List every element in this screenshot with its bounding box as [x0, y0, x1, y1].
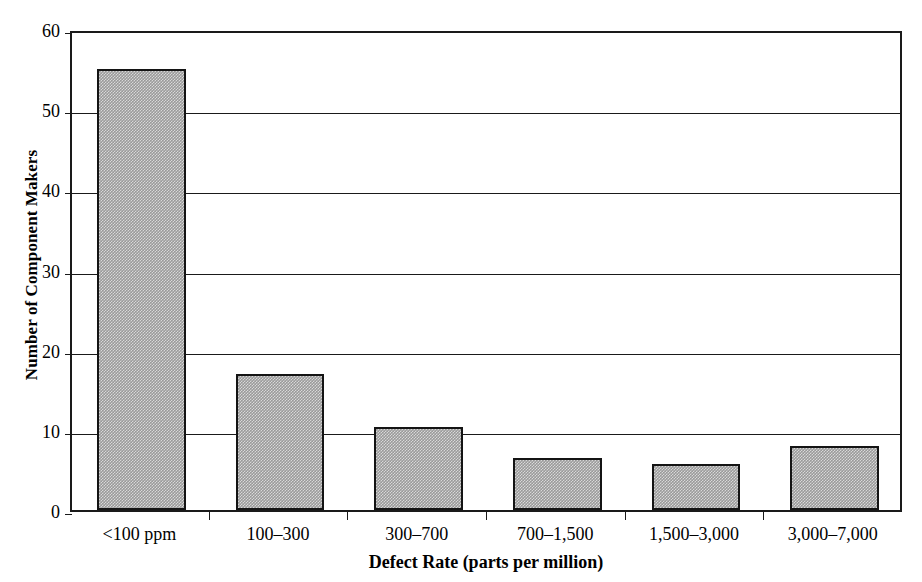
x-tick-mark [625, 512, 626, 520]
bar[interactable] [790, 446, 879, 510]
plot-area [70, 31, 902, 512]
x-axis-tick-labels: <100 ppm100–300300–700700–1,5001,500–3,0… [70, 521, 902, 549]
bar-slot [765, 33, 904, 510]
bar[interactable] [236, 374, 325, 510]
y-tick-label: 0 [14, 503, 60, 521]
bar[interactable] [97, 69, 186, 510]
bar[interactable] [652, 464, 741, 510]
x-tick-label: 3,000–7,000 [763, 521, 902, 547]
y-tick-mark [65, 113, 72, 114]
y-tick-mark [65, 33, 72, 34]
bar-slot [349, 33, 488, 510]
x-tick-label: 300–700 [347, 521, 486, 547]
x-tick-label: 1,500–3,000 [625, 521, 764, 547]
y-tick-label: 30 [14, 263, 60, 281]
bar[interactable] [374, 427, 463, 510]
y-tick-label: 50 [14, 102, 60, 120]
y-tick-mark [65, 274, 72, 275]
x-tick-label: 700–1,500 [486, 521, 625, 547]
x-tick-mark [486, 512, 487, 520]
bar[interactable] [513, 458, 602, 510]
bar-slot [488, 33, 627, 510]
x-tick-label: 100–300 [209, 521, 348, 547]
y-tick-label: 10 [14, 423, 60, 441]
y-tick-label: 40 [14, 182, 60, 200]
x-tick-mark [209, 512, 210, 520]
bar-slot [72, 33, 211, 510]
y-tick-label: 20 [14, 343, 60, 361]
bar-slot [627, 33, 766, 510]
y-tick-mark [65, 354, 72, 355]
y-axis-tick-labels: 0102030405060 [14, 0, 60, 582]
x-tick-mark [763, 512, 764, 520]
bar-slot [211, 33, 350, 510]
y-tick-mark [65, 434, 72, 435]
y-tick-label: 60 [14, 22, 60, 40]
bar-series [72, 33, 900, 510]
x-tick-mark [347, 512, 348, 520]
x-tick-label: <100 ppm [70, 521, 209, 547]
x-axis-title: Defect Rate (parts per million) [70, 550, 902, 574]
y-tick-mark [65, 193, 72, 194]
bar-chart-figure: Number of Component Makers 0102030405060… [0, 0, 922, 582]
